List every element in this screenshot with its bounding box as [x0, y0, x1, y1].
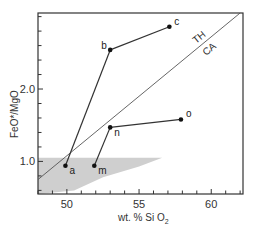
field-label-ca: CA: [200, 40, 218, 57]
x-axis-ticks: 505560: [38, 189, 240, 210]
shaded-region: [38, 158, 162, 194]
point-n: [108, 125, 113, 130]
x-axis-title: wt. % Si O2: [117, 212, 169, 225]
x-tick-label: 50: [61, 198, 73, 210]
data-points: abcmno: [63, 16, 192, 176]
th-ca-divider-line: [38, 13, 240, 180]
segment-b-c: [110, 27, 169, 50]
segment-a-b: [65, 50, 110, 166]
shaded-field: [38, 158, 162, 194]
point-label-b: b: [101, 40, 107, 51]
y-axis-title: FeO*/MgO: [9, 90, 20, 138]
point-m: [92, 163, 97, 168]
y-tick-label: 1.0: [20, 155, 35, 167]
point-b: [108, 48, 113, 53]
divider-line: [38, 13, 240, 180]
y-tick-label: 2.0: [20, 83, 35, 95]
point-a: [63, 163, 68, 168]
point-c: [167, 24, 172, 29]
point-label-o: o: [186, 108, 192, 119]
field-label-th: TH: [190, 29, 207, 46]
chart: 505560 1.02.0 abcmno wt. % Si O2 FeO*/Mg…: [0, 0, 267, 228]
point-label-a: a: [69, 165, 75, 176]
x-tick-label: 60: [205, 198, 217, 210]
point-label-c: c: [174, 16, 179, 27]
point-label-m: m: [98, 165, 106, 176]
point-label-n: n: [114, 127, 120, 138]
segment-n-o: [110, 119, 181, 127]
data-segments: [65, 27, 180, 166]
point-o: [179, 117, 184, 122]
x-tick-label: 55: [133, 198, 145, 210]
